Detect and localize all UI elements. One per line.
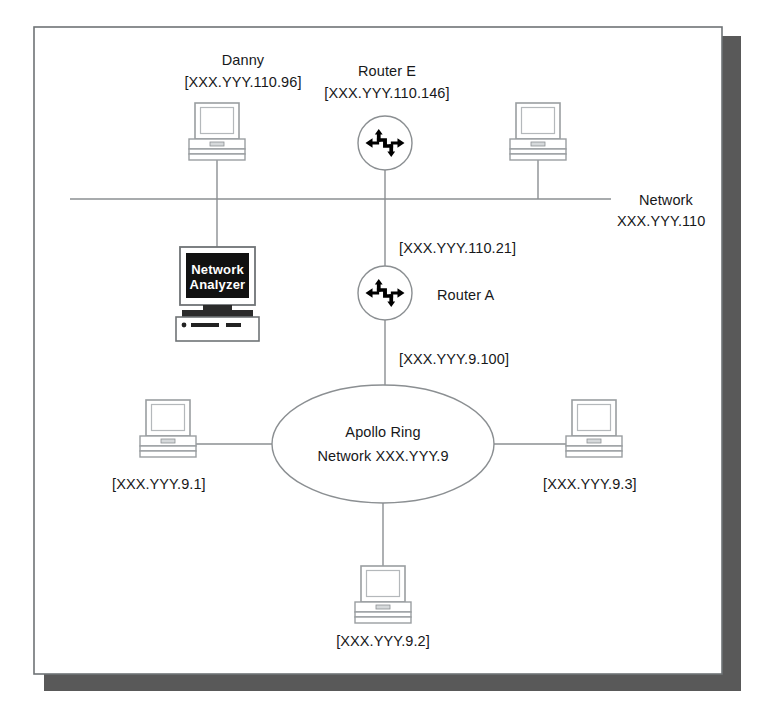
analyzer-keyboard bbox=[182, 310, 253, 317]
desktop-computer-icon bbox=[566, 400, 622, 457]
analyzer-slot-b bbox=[226, 323, 241, 327]
analyzer-slot-a bbox=[191, 323, 219, 327]
label-router-e-name: Router E bbox=[358, 63, 416, 79]
diagram-canvas: Network Analyzer bbox=[0, 0, 760, 719]
label-host-9-3: [XXX.YYY.9.3] bbox=[543, 476, 637, 492]
desktop-computer-icon bbox=[189, 103, 245, 160]
label-router-a-upper-link: [XXX.YYY.110.21] bbox=[399, 240, 516, 256]
node-host-9-3[interactable] bbox=[566, 400, 622, 457]
label-router-e-address: [XXX.YYY.110.146] bbox=[324, 85, 449, 101]
network-diagram: Network Analyzer bbox=[0, 0, 760, 719]
desktop-computer-icon bbox=[510, 103, 566, 160]
label-danny-address: [XXX.YYY.110.96] bbox=[184, 74, 301, 90]
label-router-a-lower-link: [XXX.YYY.9.100] bbox=[399, 351, 509, 367]
apollo-ring-cloud bbox=[272, 385, 494, 503]
node-host-9-2[interactable] bbox=[355, 566, 411, 623]
label-backbone-network: Network bbox=[639, 192, 694, 208]
label-apollo-ring-network: Network XXX.YYY.9 bbox=[317, 448, 448, 464]
node-router-a[interactable] bbox=[358, 266, 412, 320]
analyzer-neck bbox=[203, 305, 232, 310]
desktop-computer-icon bbox=[140, 400, 196, 457]
node-network-analyzer[interactable]: Network Analyzer bbox=[176, 247, 259, 341]
label-apollo-ring-title: Apollo Ring bbox=[345, 424, 420, 440]
label-host-9-1: [XXX.YYY.9.1] bbox=[112, 476, 206, 492]
analyzer-chassis bbox=[176, 317, 259, 341]
node-router-e[interactable] bbox=[358, 116, 412, 170]
label-danny-name: Danny bbox=[222, 52, 265, 68]
desktop-computer-icon bbox=[355, 566, 411, 623]
label-host-9-2: [XXX.YYY.9.2] bbox=[336, 633, 430, 649]
node-unlabeled-workstation[interactable] bbox=[510, 103, 566, 160]
node-danny[interactable] bbox=[189, 103, 245, 160]
analyzer-screen-line2: Analyzer bbox=[190, 277, 246, 292]
node-host-9-1[interactable] bbox=[140, 400, 196, 457]
analyzer-power-led bbox=[182, 323, 187, 328]
label-backbone-address: XXX.YYY.110 bbox=[617, 213, 705, 229]
label-router-a-name: Router A bbox=[437, 287, 494, 303]
analyzer-screen-line1: Network bbox=[191, 262, 244, 277]
